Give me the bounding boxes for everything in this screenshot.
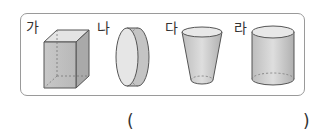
answer-open-paren: ( xyxy=(127,113,134,130)
rectangular-prism-icon xyxy=(40,26,92,92)
sideways-cylinder-icon xyxy=(113,26,153,88)
cylinder-icon xyxy=(249,24,297,88)
label-ga: 가 xyxy=(26,20,39,34)
answer-blank[interactable] xyxy=(140,112,300,132)
truncated-cone-icon xyxy=(180,26,226,88)
answer-close-paren: ) xyxy=(303,113,310,130)
label-ra: 라 xyxy=(234,21,247,35)
label-na: 나 xyxy=(97,21,110,35)
label-da: 다 xyxy=(165,21,178,35)
